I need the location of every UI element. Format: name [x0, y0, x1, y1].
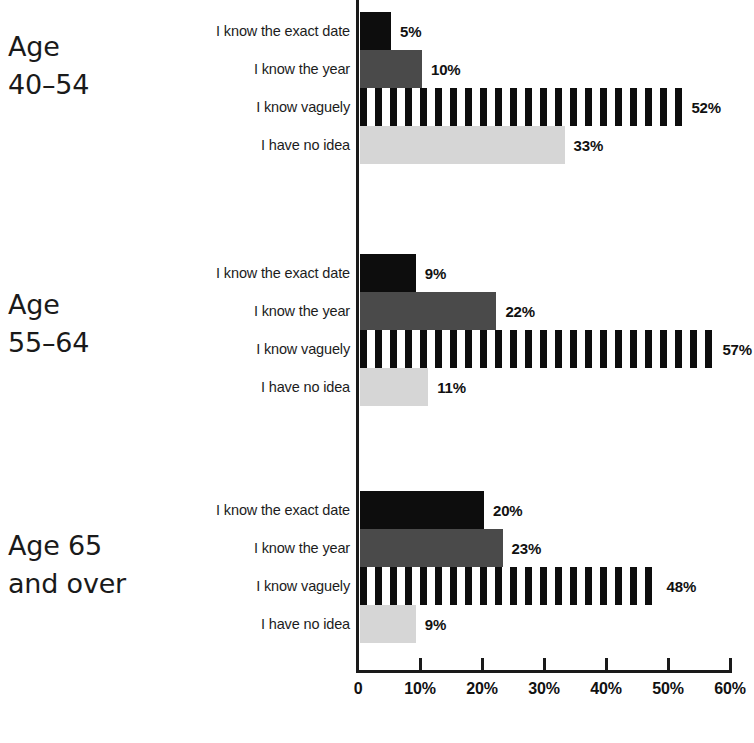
- category-label-group1-1: I know the year: [90, 61, 350, 77]
- axis-tick-label-2: 20%: [466, 680, 497, 698]
- category-label-group1-3: I have no idea: [90, 137, 350, 153]
- value-label-group1-3: 33%: [574, 137, 603, 154]
- axis-tick-20: [481, 658, 484, 671]
- category-label-group3-2: I know vaguely: [90, 578, 350, 594]
- bar-group1-i-have-no-idea: [360, 126, 565, 164]
- bar-group2-i-know-the-exact-date: [360, 254, 416, 292]
- bar-group1-i-know-the-year: [360, 50, 422, 88]
- bar-group2-i-have-no-idea: [360, 368, 428, 406]
- category-label-group3-0: I know the exact date: [90, 502, 350, 518]
- axis-tick-40: [605, 658, 608, 671]
- axis-tick-label-1: 10%: [404, 680, 435, 698]
- value-label-group2-2: 57%: [722, 341, 751, 358]
- axis-tick-label-4: 40%: [590, 680, 621, 698]
- bar-group1-i-know-vaguely: [360, 88, 682, 126]
- value-label-group2-0: 9%: [425, 265, 446, 282]
- value-label-group3-0: 20%: [493, 502, 522, 519]
- value-label-group2-3: 11%: [437, 379, 466, 396]
- value-label-group3-3: 9%: [425, 616, 446, 633]
- category-label-group2-0: I know the exact date: [90, 265, 350, 281]
- value-label-group3-2: 48%: [667, 578, 696, 595]
- category-label-group2-2: I know vaguely: [90, 341, 350, 357]
- bar-group3-i-know-the-exact-date: [360, 491, 484, 529]
- bar-group2-i-know-vaguely: [360, 330, 713, 368]
- value-label-group1-0: 5%: [400, 23, 421, 40]
- category-label-group3-1: I know the year: [90, 540, 350, 556]
- bar-group3-i-know-vaguely: [360, 567, 658, 605]
- value-label-group1-2: 52%: [691, 99, 720, 116]
- bar-group3-i-know-the-year: [360, 529, 503, 567]
- value-label-group2-1: 22%: [505, 303, 534, 320]
- axis-tick-60: [729, 658, 732, 671]
- axis-vertical-line: [356, 0, 359, 672]
- value-label-group3-1: 23%: [512, 540, 541, 557]
- axis-tick-label-6: 60%: [714, 680, 745, 698]
- axis-tick-10: [419, 658, 422, 671]
- axis-tick-label-0: 0: [354, 680, 363, 698]
- value-label-group1-1: 10%: [431, 61, 460, 78]
- bar-group3-i-have-no-idea: [360, 605, 416, 643]
- category-label-group2-3: I have no idea: [90, 379, 350, 395]
- category-label-group1-2: I know vaguely: [90, 99, 350, 115]
- axis-tick-30: [543, 658, 546, 671]
- category-label-group2-1: I know the year: [90, 303, 350, 319]
- category-label-group3-3: I have no idea: [90, 616, 350, 632]
- axis-tick-50: [667, 658, 670, 671]
- bar-group1-i-know-the-exact-date: [360, 12, 391, 50]
- axis-tick-label-3: 30%: [528, 680, 559, 698]
- bar-group2-i-know-the-year: [360, 292, 496, 330]
- chart-container: Age 40–54 Age 55–64 Age 65 and over 010%…: [0, 0, 754, 743]
- category-label-group1-0: I know the exact date: [90, 23, 350, 39]
- axis-tick-label-5: 50%: [652, 680, 683, 698]
